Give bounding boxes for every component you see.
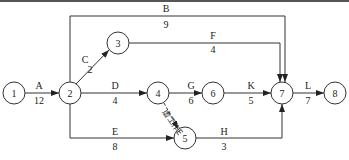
activity-D-duration: 4 — [113, 95, 118, 106]
arrow-H — [196, 104, 282, 138]
node-7-label: 7 — [280, 88, 285, 99]
activity-B-duration: 9 — [164, 19, 169, 30]
network-diagram: 1 2 3 4 5 6 7 8 A 12 B 9 C 2 F 4 D 4 E 8… — [0, 0, 349, 160]
node-8-label: 8 — [333, 88, 338, 99]
activity-L-duration: 7 — [306, 95, 311, 106]
activity-L-name: L — [305, 80, 311, 91]
activity-K-name: K — [247, 80, 255, 91]
activity-H-duration: 3 — [222, 141, 227, 152]
activity-A-name: A — [35, 80, 43, 91]
activity-G-duration: 6 — [189, 95, 194, 106]
activity-G-name: G — [187, 80, 194, 91]
activity-F-duration: 4 — [211, 44, 216, 55]
activity-H-name: H — [220, 126, 227, 137]
dummy-activity-label: 虚工作E — [160, 107, 185, 137]
node-6-label: 6 — [211, 88, 216, 99]
node-3-label: 3 — [116, 38, 121, 49]
node-4-label: 4 — [156, 88, 161, 99]
node-2-label: 2 — [68, 88, 73, 99]
activity-F-name: F — [210, 30, 216, 41]
node-5-label: 5 — [183, 133, 188, 144]
activity-C-duration: 2 — [88, 64, 93, 75]
activity-K-duration: 5 — [249, 95, 254, 106]
activity-E-duration: 8 — [113, 141, 118, 152]
activity-D-name: D — [111, 80, 118, 91]
arrow-B — [70, 16, 285, 82]
activity-A-duration: 12 — [34, 95, 44, 106]
activity-E-name: E — [112, 126, 118, 137]
node-1-label: 1 — [12, 88, 17, 99]
arrow-E — [70, 104, 174, 138]
activity-B-name: B — [163, 3, 170, 14]
arrow-F — [129, 43, 280, 82]
